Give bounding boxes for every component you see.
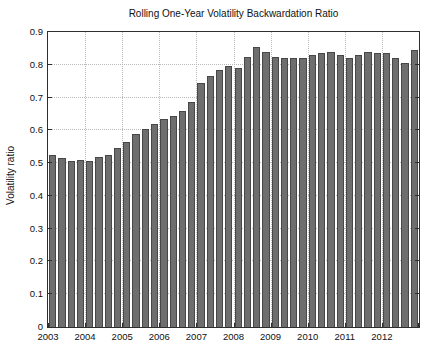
bar-2008Q3 [253, 47, 260, 327]
bar-2005Q1 [123, 142, 130, 327]
x-tick-label-2006: 2006 [140, 331, 178, 342]
bar-2003Q4 [77, 160, 84, 327]
bar-2009Q3 [290, 58, 297, 327]
bar-2004Q4 [114, 148, 121, 327]
bar-2008Q1 [235, 68, 242, 327]
x-tick-mark [418, 323, 419, 327]
bar-2003Q3 [68, 161, 75, 327]
bar-2009Q1 [272, 57, 279, 327]
x-tick-mark [271, 323, 272, 327]
bar-2010Q1 [309, 55, 316, 327]
x-tick-label-2003: 2003 [29, 331, 67, 342]
x-tick-mark [308, 323, 309, 327]
bar-2005Q2 [132, 134, 139, 327]
plot-area [47, 31, 420, 328]
bar-2009Q2 [281, 58, 288, 327]
bar-2005Q3 [142, 129, 149, 327]
bar-2003Q1 [49, 155, 56, 327]
y-tick-mark [415, 129, 419, 130]
bar-2008Q4 [262, 52, 269, 327]
y-tick-mark [415, 162, 419, 163]
y-tick-label-0.9: 0.9 [5, 27, 43, 37]
x-tick-label-2012: 2012 [363, 331, 401, 342]
bar-2010Q2 [318, 53, 325, 327]
bar-2007Q4 [225, 66, 232, 327]
bar-2007Q1 [197, 83, 204, 327]
y-tick-mark [415, 64, 419, 65]
bar-2009Q4 [299, 58, 306, 327]
y-tick-mark [48, 293, 52, 294]
bar-2006Q4 [188, 102, 195, 327]
x-tick-label-2007: 2007 [177, 331, 215, 342]
x-tick-mark [122, 323, 123, 327]
y-tick-mark [48, 195, 52, 196]
bar-2004Q3 [105, 155, 112, 327]
x-tick-mark [345, 323, 346, 327]
bar-2007Q2 [207, 76, 214, 327]
y-tick-label-0.7: 0.7 [5, 93, 43, 103]
x-tick-mark [159, 323, 160, 327]
x-tick-mark [48, 323, 49, 327]
bar-2007Q3 [216, 70, 223, 327]
bar-2010Q3 [327, 52, 334, 327]
x-tick-label-2009: 2009 [252, 331, 290, 342]
y-tick-label-0.6: 0.6 [5, 125, 43, 135]
y-tick-label-0.4: 0.4 [5, 191, 43, 201]
y-tick-mark [415, 260, 419, 261]
x-tick-label-2008: 2008 [215, 331, 253, 342]
bar-2005Q4 [151, 124, 158, 327]
bar-2011Q3 [364, 52, 371, 327]
x-tick-label-2011: 2011 [326, 331, 364, 342]
bar-2004Q2 [95, 157, 102, 327]
y-tick-mark [48, 129, 52, 130]
y-tick-label-0.1: 0.1 [5, 289, 43, 299]
bar-2012Q2 [392, 58, 399, 327]
x-tick-label-2005: 2005 [103, 331, 141, 342]
y-tick-mark [48, 97, 52, 98]
x-tick-mark [382, 323, 383, 327]
y-tick-mark [48, 64, 52, 65]
y-tick-mark [48, 162, 52, 163]
bar-2010Q4 [337, 55, 344, 327]
bar-2011Q1 [346, 58, 353, 327]
bar-2011Q2 [355, 55, 362, 327]
x-tick-label-2010: 2010 [289, 331, 327, 342]
bar-2012Q1 [383, 53, 390, 327]
x-tick-label-2004: 2004 [66, 331, 104, 342]
bar-2011Q4 [374, 53, 381, 327]
bar-2012Q4 [411, 50, 418, 327]
chart-title: Rolling One-Year Volatility Backwardatio… [47, 8, 420, 19]
bar-2006Q1 [160, 119, 167, 327]
y-tick-label-0.2: 0.2 [5, 256, 43, 266]
bar-2003Q2 [58, 158, 65, 327]
bar-2006Q3 [179, 111, 186, 327]
bar-2006Q2 [170, 116, 177, 327]
y-tick-label-0.5: 0.5 [5, 158, 43, 168]
y-tick-mark [415, 195, 419, 196]
y-tick-mark [415, 228, 419, 229]
bar-2004Q1 [86, 161, 93, 327]
y-tick-mark [415, 293, 419, 294]
y-tick-mark [48, 260, 52, 261]
chart-figure: Rolling One-Year Volatility Backwardatio… [0, 0, 433, 356]
x-tick-mark [234, 323, 235, 327]
x-tick-mark [85, 323, 86, 327]
y-tick-mark [48, 228, 52, 229]
y-tick-label-0.8: 0.8 [5, 60, 43, 70]
bar-2008Q2 [244, 57, 251, 327]
x-tick-mark [196, 323, 197, 327]
y-tick-label-0.3: 0.3 [5, 224, 43, 234]
y-tick-mark [415, 97, 419, 98]
bar-2012Q3 [401, 63, 408, 327]
